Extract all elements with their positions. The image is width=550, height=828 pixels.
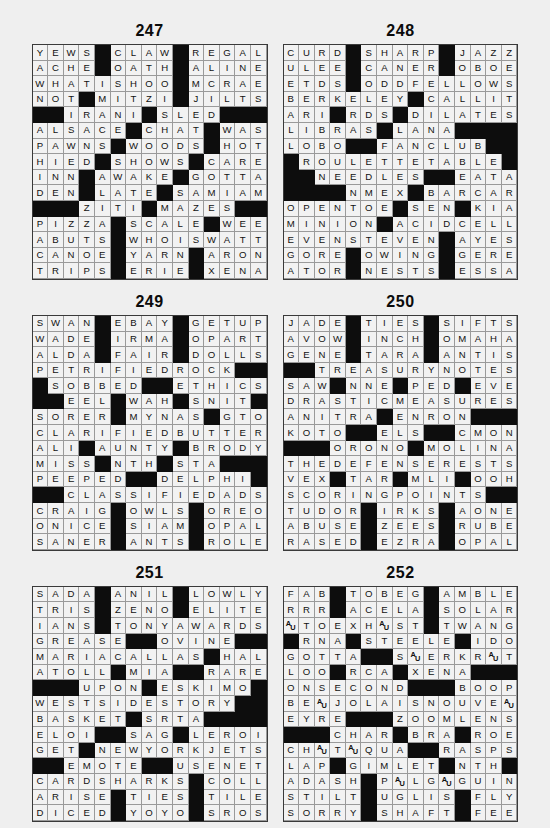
block-cell[interactable] bbox=[189, 519, 205, 535]
letter-cell[interactable]: A bbox=[157, 519, 173, 535]
letter-cell[interactable]: V bbox=[486, 378, 502, 394]
letter-cell[interactable]: D bbox=[439, 217, 455, 233]
letter-cell[interactable]: A bbox=[315, 774, 331, 790]
letter-cell[interactable]: S bbox=[424, 263, 440, 279]
letter-cell[interactable]: U bbox=[284, 61, 300, 77]
letter-cell[interactable]: T bbox=[346, 587, 362, 603]
crossword-grid-248[interactable]: CURDSHARPJAZZULEECANEROBOEETDSODDFELLOWS… bbox=[283, 44, 519, 280]
letter-cell[interactable]: A bbox=[33, 347, 49, 363]
letter-cell[interactable]: A bbox=[235, 649, 251, 665]
block-cell[interactable] bbox=[64, 680, 80, 696]
letter-cell[interactable]: N bbox=[377, 332, 393, 348]
block-cell[interactable] bbox=[315, 185, 331, 201]
letter-cell[interactable]: X bbox=[408, 665, 424, 681]
letter-cell[interactable]: C bbox=[235, 378, 251, 394]
letter-cell[interactable]: E bbox=[95, 248, 111, 264]
letter-cell[interactable]: I bbox=[315, 790, 331, 806]
letter-cell[interactable]: E bbox=[251, 61, 267, 77]
letter-cell[interactable]: A bbox=[48, 712, 64, 728]
letter-cell[interactable]: O bbox=[330, 503, 346, 519]
block-cell[interactable] bbox=[251, 394, 267, 410]
letter-cell[interactable]: D bbox=[95, 805, 111, 821]
letter-cell[interactable]: I bbox=[142, 347, 158, 363]
letter-cell[interactable]: T bbox=[315, 649, 331, 665]
letter-cell[interactable]: N bbox=[315, 634, 331, 650]
letter-cell[interactable]: I bbox=[64, 441, 80, 457]
letter-cell[interactable]: L bbox=[361, 696, 377, 712]
letter-cell[interactable]: A bbox=[502, 201, 518, 217]
letter-cell[interactable]: A bbox=[502, 332, 518, 348]
block-cell[interactable] bbox=[502, 154, 518, 170]
letter-cell[interactable]: R bbox=[204, 534, 220, 550]
letter-cell[interactable]: W bbox=[33, 332, 49, 348]
letter-cell[interactable]: N bbox=[346, 378, 362, 394]
letter-cell[interactable]: E bbox=[471, 248, 487, 264]
letter-cell[interactable]: I bbox=[64, 790, 80, 806]
letter-cell[interactable]: O bbox=[157, 634, 173, 650]
letter-cell[interactable]: E bbox=[486, 394, 502, 410]
letter-cell[interactable]: A bbox=[408, 602, 424, 618]
letter-cell[interactable]: M bbox=[157, 201, 173, 217]
letter-cell[interactable]: A bbox=[95, 487, 111, 503]
letter-cell[interactable]: A bbox=[346, 602, 362, 618]
block-cell[interactable] bbox=[330, 107, 346, 123]
letter-cell[interactable]: I bbox=[315, 107, 331, 123]
letter-cell[interactable]: A bbox=[251, 263, 267, 279]
letter-cell[interactable]: A bbox=[48, 587, 64, 603]
letter-cell[interactable]: P bbox=[220, 519, 236, 535]
letter-cell[interactable]: R bbox=[220, 805, 236, 821]
letter-cell[interactable]: E bbox=[502, 805, 518, 821]
letter-cell[interactable]: U bbox=[330, 154, 346, 170]
letter-cell[interactable]: E bbox=[48, 45, 64, 61]
letter-cell[interactable]: H bbox=[48, 76, 64, 92]
letter-cell[interactable]: R bbox=[95, 409, 111, 425]
letter-cell[interactable]: K bbox=[408, 503, 424, 519]
letter-cell[interactable]: R bbox=[455, 519, 471, 535]
block-cell[interactable] bbox=[251, 107, 267, 123]
block-cell[interactable] bbox=[330, 758, 346, 774]
letter-cell[interactable]: I bbox=[299, 217, 315, 233]
letter-cell[interactable]: J bbox=[284, 316, 300, 332]
letter-cell[interactable]: Z bbox=[502, 45, 518, 61]
letter-cell[interactable]: A bbox=[439, 727, 455, 743]
letter-cell[interactable]: E bbox=[220, 743, 236, 759]
letter-cell[interactable]: E bbox=[142, 363, 158, 379]
letter-cell[interactable]: N bbox=[455, 409, 471, 425]
letter-cell[interactable]: W bbox=[157, 154, 173, 170]
letter-cell[interactable]: Z bbox=[486, 45, 502, 61]
letter-cell[interactable]: O bbox=[455, 534, 471, 550]
letter-cell[interactable]: A bbox=[315, 394, 331, 410]
letter-cell[interactable]: O bbox=[486, 680, 502, 696]
rebus-cell[interactable]: AU bbox=[393, 774, 409, 790]
block-cell[interactable] bbox=[439, 425, 455, 441]
block-cell[interactable] bbox=[111, 217, 127, 233]
letter-cell[interactable]: B bbox=[284, 696, 300, 712]
letter-cell[interactable]: A bbox=[393, 45, 409, 61]
letter-cell[interactable]: Y bbox=[299, 712, 315, 728]
letter-cell[interactable]: M bbox=[408, 472, 424, 488]
block-cell[interactable] bbox=[408, 92, 424, 108]
block-cell[interactable] bbox=[189, 248, 205, 264]
block-cell[interactable] bbox=[424, 425, 440, 441]
letter-cell[interactable]: S bbox=[173, 790, 189, 806]
letter-cell[interactable]: I bbox=[220, 185, 236, 201]
block-cell[interactable] bbox=[455, 123, 471, 139]
letter-cell[interactable]: E bbox=[502, 727, 518, 743]
letter-cell[interactable]: O bbox=[471, 680, 487, 696]
letter-cell[interactable]: T bbox=[471, 758, 487, 774]
letter-cell[interactable]: T bbox=[235, 743, 251, 759]
letter-cell[interactable]: L bbox=[48, 425, 64, 441]
letter-cell[interactable]: N bbox=[299, 409, 315, 425]
letter-cell[interactable]: E bbox=[393, 587, 409, 603]
letter-cell[interactable]: I bbox=[330, 217, 346, 233]
letter-cell[interactable]: E bbox=[393, 316, 409, 332]
letter-cell[interactable]: A bbox=[330, 634, 346, 650]
letter-cell[interactable]: T bbox=[471, 347, 487, 363]
letter-cell[interactable]: I bbox=[111, 696, 127, 712]
letter-cell[interactable]: U bbox=[455, 139, 471, 155]
letter-cell[interactable]: S bbox=[189, 649, 205, 665]
letter-cell[interactable]: N bbox=[361, 263, 377, 279]
letter-cell[interactable]: A bbox=[393, 139, 409, 155]
letter-cell[interactable]: J bbox=[204, 743, 220, 759]
letter-cell[interactable]: F bbox=[111, 363, 127, 379]
